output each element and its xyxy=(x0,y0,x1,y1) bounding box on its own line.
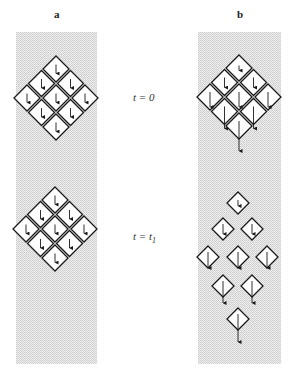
figure-canvas xyxy=(0,0,295,376)
equals-sign: = xyxy=(136,230,149,242)
equals-sign: = xyxy=(136,91,149,103)
time-value: 0 xyxy=(149,91,155,103)
time-subscript: 1 xyxy=(152,236,156,245)
time-label-t0: t = 0 xyxy=(133,91,155,103)
time-label-t1: t = t1 xyxy=(133,230,156,245)
